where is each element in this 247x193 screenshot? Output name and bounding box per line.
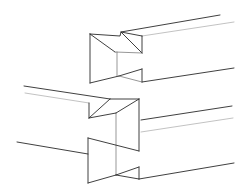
lower-joint	[17, 86, 234, 183]
upper-joint	[90, 15, 234, 83]
joinery-diagram	[0, 0, 247, 193]
